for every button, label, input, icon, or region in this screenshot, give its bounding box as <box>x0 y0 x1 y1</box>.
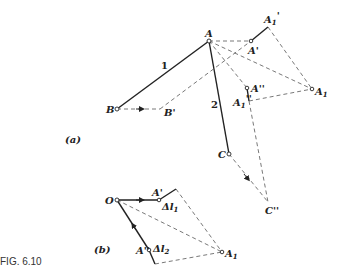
displacement-c <box>229 154 268 202</box>
label-a: A <box>204 28 213 39</box>
joint-c <box>227 152 231 156</box>
label-a-prime: A' <box>247 45 259 56</box>
label-a1-prime: A1' <box>263 10 280 27</box>
bar-2 <box>209 41 229 154</box>
arrow-o-adprime <box>133 225 136 230</box>
translated-bar-2 <box>249 101 268 202</box>
point-a-double-prime <box>245 86 249 90</box>
label-b-a1: A1 <box>224 248 238 261</box>
label-bar-2: 2 <box>211 99 218 110</box>
bar-1 <box>117 41 209 109</box>
point-a-prime <box>249 39 253 43</box>
label-delta-l1: Δl1 <box>161 201 178 214</box>
label-b-a-prime: A' <box>151 187 163 198</box>
part-b: O A' A'' A1 Δl1 Δl2 (b) <box>94 187 238 264</box>
label-o: O <box>105 195 114 206</box>
label-bar-1: 1 <box>161 60 168 71</box>
perp-top-a1 <box>176 189 222 252</box>
elongation-a-prime <box>251 27 268 41</box>
williot-diagram: A B B' A' A1' A'' A1'' A1 C C'' 1 2 (a) … <box>0 0 340 275</box>
label-a-double-prime: A'' <box>250 83 265 94</box>
label-c-double-prime: C'' <box>265 205 279 216</box>
label-delta-l2: Δl2 <box>152 243 170 256</box>
label-a1: A1 <box>314 86 328 99</box>
part-a: A B B' A' A1' A'' A1'' A1 C C'' 1 2 (a) <box>65 10 328 216</box>
dash-a-a1 <box>209 41 312 89</box>
label-part-b: (b) <box>94 244 111 255</box>
label-b: B <box>105 104 114 115</box>
point-b-a-prime <box>157 198 161 202</box>
label-b-prime: B' <box>163 107 176 118</box>
label-a1-double-prime: A1'' <box>232 93 252 110</box>
label-part-a: (a) <box>65 134 81 145</box>
figure-caption: FIG. 6.10 <box>0 256 42 267</box>
joint-a <box>207 39 211 43</box>
label-b-a-double-prime: A'' <box>135 245 150 256</box>
point-a1 <box>310 87 314 91</box>
label-c: C <box>218 149 226 160</box>
point-b-a1 <box>220 250 224 254</box>
perp-a1prime-a1 <box>268 27 312 89</box>
joint-b <box>115 107 119 111</box>
point-o <box>115 198 119 202</box>
